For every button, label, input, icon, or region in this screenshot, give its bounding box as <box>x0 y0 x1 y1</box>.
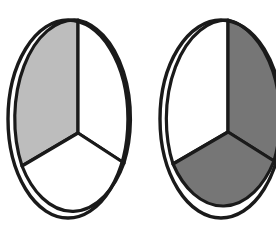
right-ellipse <box>160 20 276 218</box>
left-ellipse <box>8 20 130 218</box>
figure-canvas <box>0 0 276 235</box>
